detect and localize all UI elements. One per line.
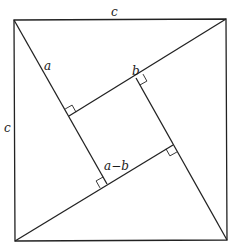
right-angle-marker-1 xyxy=(65,105,76,112)
right-angle-marker-2 xyxy=(140,74,147,85)
right-angle-marker-4 xyxy=(96,177,103,188)
right-angle-marker-3 xyxy=(166,149,177,156)
label-left-c: c xyxy=(4,121,11,135)
label-top-c: c xyxy=(111,5,118,19)
outer-square xyxy=(14,19,227,241)
line-a-topleft xyxy=(14,20,107,184)
pythagorean-diagram: c c a b a−b xyxy=(0,0,231,244)
label-b: b xyxy=(132,64,140,78)
line-bottomleft xyxy=(15,145,173,241)
line-topright xyxy=(69,19,226,116)
label-a: a xyxy=(44,59,51,73)
label-a-minus-b: a−b xyxy=(104,159,129,173)
